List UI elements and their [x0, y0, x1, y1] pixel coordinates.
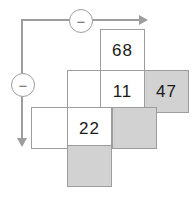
arrow-right-icon: [139, 15, 148, 25]
minus-operator-top-icon: −: [69, 9, 93, 33]
cell-shaded-middle-empty[interactable]: [112, 107, 157, 149]
cell-top-number[interactable]: 68: [100, 29, 145, 71]
minus-symbol-top: −: [77, 14, 86, 29]
cell-shaded-bottom-empty[interactable]: [67, 145, 112, 187]
cell-bottom-number[interactable]: 22: [67, 107, 112, 149]
minus-symbol-left: −: [19, 78, 28, 93]
minus-operator-left-icon: −: [11, 73, 35, 97]
diagram-canvas: − − 68 11 47 22: [0, 0, 192, 201]
arrow-down-icon: [17, 138, 27, 147]
